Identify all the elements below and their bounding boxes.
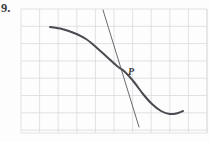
figure-container: 9. P <box>0 0 210 142</box>
function-curve <box>50 27 183 114</box>
point-p-label: P <box>128 66 134 77</box>
grid-lines <box>21 9 207 133</box>
graph-figure <box>0 0 210 142</box>
